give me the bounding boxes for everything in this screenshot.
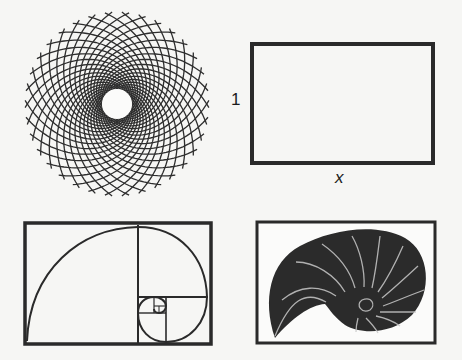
nautilus-panel bbox=[257, 222, 435, 343]
rect-width-label: x bbox=[335, 168, 344, 188]
golden-spiral-curve bbox=[27, 227, 207, 342]
rect-height-label: 1 bbox=[231, 90, 240, 110]
phyllotaxis-disc bbox=[25, 12, 209, 196]
figure-canvas bbox=[0, 0, 462, 360]
golden-rectangle bbox=[252, 44, 433, 163]
golden-spiral-panel bbox=[25, 223, 211, 344]
